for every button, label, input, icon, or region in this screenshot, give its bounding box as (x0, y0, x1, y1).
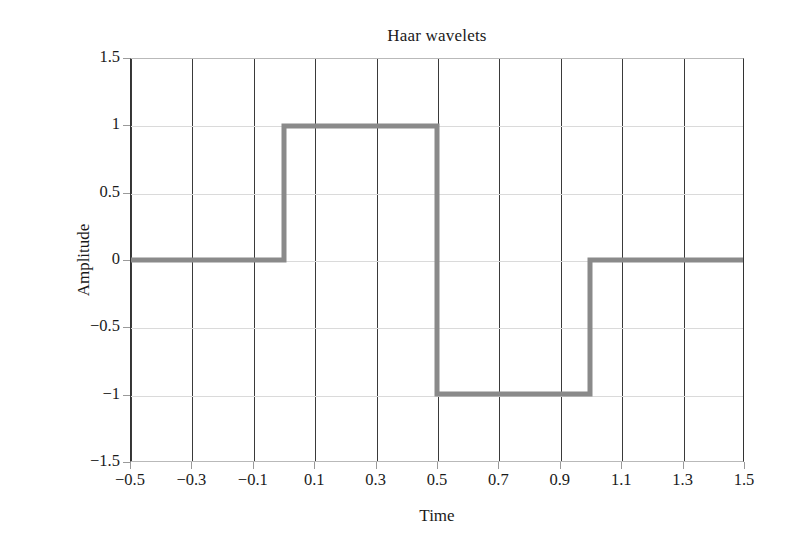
haar-wavelet-line (131, 59, 743, 461)
y-tick-mark-3 (123, 260, 130, 261)
x-tick-mark-9 (683, 462, 684, 469)
x-tick-mark-4 (376, 462, 377, 469)
y-tick-mark-0 (123, 58, 130, 59)
x-tick-mark-8 (621, 462, 622, 469)
plot-area (130, 58, 744, 462)
x-tick-mark-5 (437, 462, 438, 469)
y-axis-title: Amplitude (56, 58, 112, 462)
y-tick-mark-5 (123, 395, 130, 396)
x-axis-title: Time (130, 506, 744, 526)
x-tick-mark-2 (253, 462, 254, 469)
x-tick-label-10: 1.5 (704, 470, 784, 490)
chart-figure: Haar wavelets 1.510.50−0.5−1−1.5 −0.5−0.… (0, 0, 795, 549)
y-tick-mark-1 (123, 125, 130, 126)
x-tick-mark-10 (744, 462, 745, 469)
y-tick-mark-6 (123, 462, 130, 463)
chart-title: Haar wavelets (130, 26, 744, 46)
y-tick-mark-4 (123, 327, 130, 328)
haar-wavelet-polyline (131, 126, 743, 394)
x-tick-mark-6 (498, 462, 499, 469)
x-tick-mark-3 (314, 462, 315, 469)
x-tick-mark-0 (130, 462, 131, 469)
x-tick-mark-1 (191, 462, 192, 469)
x-tick-mark-7 (560, 462, 561, 469)
y-tick-mark-2 (123, 193, 130, 194)
